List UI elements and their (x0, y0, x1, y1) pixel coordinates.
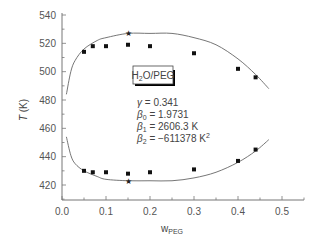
parameter-annotation: β0 = 1.9731 (136, 109, 189, 121)
parameter-annotation: β1 = 2606.3 K (136, 121, 198, 133)
data-point (104, 44, 108, 48)
x-axis-label: wPEG (160, 223, 183, 235)
critical-point-star: ★ (125, 29, 132, 38)
data-point (254, 148, 258, 152)
data-point (254, 75, 258, 79)
y-tick-label: 440 (39, 151, 56, 162)
data-point (82, 50, 86, 54)
data-point (91, 170, 95, 174)
data-point (104, 170, 108, 174)
data-point (91, 44, 95, 48)
data-point (192, 167, 196, 171)
x-tick-label: 0.5 (275, 206, 289, 217)
y-axis-label: T (K) (18, 99, 29, 121)
data-point (126, 43, 130, 47)
data-point (126, 172, 130, 176)
data-point (192, 51, 196, 55)
parameter-annotation: β2 = −611378 K2 (136, 132, 210, 145)
legend-box: H2O/PEG (132, 66, 175, 86)
data-point (236, 159, 240, 163)
legend-label: H2O/PEG (132, 70, 175, 82)
x-tick-label: 0.1 (99, 206, 113, 217)
x-tick-label: 0.3 (187, 206, 201, 217)
x-tick-label: 0.0 (55, 206, 69, 217)
y-tick-label: 500 (39, 66, 56, 77)
parameter-annotations: γ = 0.341β0 = 1.9731β1 = 2606.3 Kβ2 = −6… (136, 97, 210, 145)
critical-point-star: ★ (125, 177, 132, 186)
parameter-annotation: γ = 0.341 (137, 97, 179, 108)
x-tick-label: 0.4 (231, 206, 245, 217)
y-tick-label: 480 (39, 95, 56, 106)
y-tick-label: 520 (39, 38, 56, 49)
data-point (236, 67, 240, 71)
x-axis: 0.00.10.20.30.40.5 (55, 196, 304, 217)
phase-diagram-chart: 420440460480500520540 0.00.10.20.30.40.5… (0, 0, 318, 246)
data-point (82, 169, 86, 173)
y-tick-label: 460 (39, 123, 56, 134)
x-tick-label: 0.2 (143, 206, 157, 217)
data-point (148, 170, 152, 174)
data-point (148, 44, 152, 48)
y-tick-label: 420 (39, 180, 56, 191)
y-axis: 420440460480500520540 (39, 10, 66, 201)
y-tick-label: 540 (39, 10, 56, 21)
